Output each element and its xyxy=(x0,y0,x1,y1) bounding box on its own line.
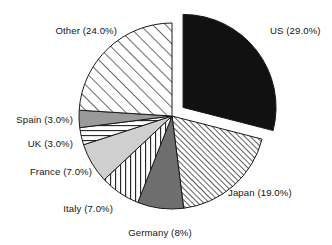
slice-label-other: Other (24.0%) xyxy=(55,25,117,36)
slice-label-italy: Italy (7.0%) xyxy=(63,203,113,214)
pie-chart-figure: US (29.0%) Japan (19.0%) Germany (8%) It… xyxy=(0,0,332,245)
slice-label-france: France (7.0%) xyxy=(30,166,92,177)
slice-label-us: US (29.0%) xyxy=(270,25,321,36)
slice-label-germany: Germany (8%) xyxy=(128,227,192,238)
slice-label-spain: Spain (3.0%) xyxy=(16,114,73,125)
slice-label-japan: Japan (19.0%) xyxy=(228,187,292,198)
slice-label-uk: UK (3.0%) xyxy=(28,138,73,149)
pie-chart-svg: US (29.0%) Japan (19.0%) Germany (8%) It… xyxy=(0,0,332,245)
